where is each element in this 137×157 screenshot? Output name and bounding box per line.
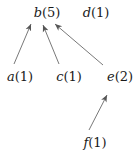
- node-f: f(1): [83, 135, 106, 150]
- node-a-count: (1): [15, 69, 33, 84]
- node-c-count: (1): [63, 69, 81, 84]
- node-d: d(1): [83, 5, 110, 20]
- edge-c-to-b: [43, 25, 59, 64]
- node-d-count: (1): [91, 5, 109, 20]
- edge-e-to-b: [55, 24, 103, 65]
- node-e-letter: e: [107, 69, 115, 84]
- node-f-count: (1): [88, 135, 106, 150]
- node-b: b(5): [34, 5, 61, 20]
- node-a: a(1): [7, 69, 33, 84]
- node-c: c(1): [56, 69, 82, 84]
- node-e: e(2): [107, 69, 133, 84]
- node-e-count: (2): [115, 69, 133, 84]
- edge-f-to-e: [89, 95, 107, 130]
- node-b-count: (5): [42, 5, 60, 20]
- node-a-letter: a: [7, 69, 15, 84]
- edge-a-to-b: [14, 24, 31, 64]
